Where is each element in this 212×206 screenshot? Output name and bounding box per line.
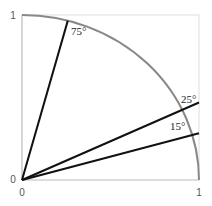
- y-tick-1: 1: [10, 10, 16, 21]
- unit-circle-diagram: 1 0 0 1 75° 25° 15°: [0, 0, 212, 206]
- unit-circle-arc: [22, 15, 199, 180]
- angle-label-15: 15°: [170, 120, 185, 132]
- angle-label-25: 25°: [181, 93, 196, 105]
- x-tick-0: 0: [19, 187, 25, 198]
- x-tick-1: 1: [196, 187, 202, 198]
- y-tick-0: 0: [10, 174, 16, 185]
- angle-label-75: 75°: [71, 25, 86, 37]
- ray-75-degrees: [22, 21, 68, 180]
